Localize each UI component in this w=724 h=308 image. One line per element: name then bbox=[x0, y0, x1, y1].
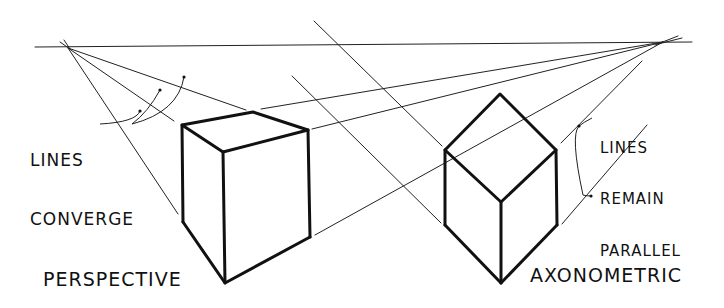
lines-converge-line1: LINES bbox=[30, 151, 134, 171]
lines-remain-parallel-line1: LINES bbox=[600, 140, 681, 157]
perspective-cube bbox=[182, 112, 310, 283]
perspective-title: PERSPECTIVE bbox=[43, 269, 182, 291]
axonometric-cube bbox=[445, 94, 557, 283]
drawing-canvas: LINES CONVERGE LINES REMAIN PARALLEL PER… bbox=[0, 0, 724, 308]
lines-remain-parallel-line3: PARALLEL bbox=[600, 243, 681, 260]
lines-converge-label: LINES CONVERGE bbox=[30, 112, 134, 268]
lines-converge-line2: CONVERGE bbox=[30, 210, 134, 230]
lines-remain-parallel-line2: REMAIN bbox=[600, 191, 681, 208]
axonometric-title: AXONOMETRIC bbox=[530, 265, 682, 287]
horizon-line bbox=[35, 42, 692, 47]
parallel-arc bbox=[575, 118, 592, 198]
axonometric-parallel-lines bbox=[292, 21, 647, 224]
